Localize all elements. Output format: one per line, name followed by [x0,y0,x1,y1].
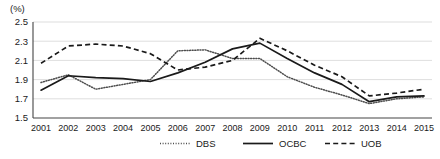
x-axis-tick-label: 2009 [250,123,270,133]
y-axis-tick-label: 2.1 [15,55,28,66]
legend-label-ocbc: OCBC [279,138,307,149]
line-chart-svg: 1.51.71.92.12.32.5 200120022003200420052… [0,0,440,159]
x-axis-tick-label: 2003 [86,123,106,133]
x-axis-tick-label: 2006 [168,123,188,133]
y-axis-tick-label: 1.7 [15,93,28,104]
series-line-dbs [41,50,424,104]
y-axis-tick-label: 2.5 [15,16,28,27]
x-axis-tick-label: 2015 [414,123,434,133]
x-axis-tick-label: 2004 [113,123,133,133]
x-axis-tick-label: 2014 [387,123,407,133]
x-axis-tick-label: 2010 [277,123,297,133]
x-axis-tick-label: 2012 [332,123,352,133]
x-axis-tick-label: 2013 [359,123,379,133]
x-axis-tick-label: 2011 [305,123,324,133]
legend-label-uob: UOB [361,138,382,149]
legend-label-dbs: DBS [196,138,216,149]
y-axis-tick-label: 1.9 [15,74,28,85]
x-axis-tick-label: 2007 [195,123,215,133]
data-series-group [41,38,424,103]
y-axis-tick-label: 2.3 [15,36,28,47]
x-axis-tick-label: 2008 [222,123,242,133]
x-axis-tick-label: 2005 [140,123,160,133]
x-axis-tick-label: 2002 [58,123,78,133]
y-axis-tick-label: 1.5 [15,112,28,123]
legend: DBSOCBCUOB [160,138,382,149]
x-axis-tick-label: 2001 [31,123,51,133]
y-axis-tick-labels: 1.51.71.92.12.32.5 [15,16,28,123]
x-axis-tick-labels: 2001200220032004200520062007200820092010… [31,123,434,133]
series-line-ocbc [41,43,424,102]
chart-container: (%) 1.51.71.92.12.32.5 20012002200320042… [0,0,440,159]
series-line-uob [41,38,424,96]
